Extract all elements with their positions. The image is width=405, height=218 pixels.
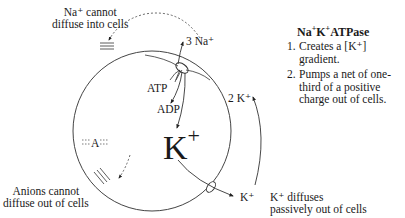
function-item: 2. Pumps a net of one-third of a positiv… — [287, 68, 405, 106]
na-cannot-label: Na⁺ cannot diffuse into cells — [52, 6, 128, 30]
na-out-arrow — [178, 42, 183, 64]
intracellular-k-label: K+ — [163, 123, 200, 165]
anion-label: A — [91, 137, 99, 149]
two-k-label: 2 K⁺ — [228, 92, 251, 104]
atp-label: ATP — [147, 82, 167, 94]
k-recycle-arrow — [253, 97, 261, 185]
k-leak-channel — [205, 180, 218, 194]
k-diffuses-label: K⁺ diffuses passively out of cells — [270, 191, 367, 215]
pump-title: Na+K+ATPase — [297, 24, 369, 40]
anion-dashed-arrow — [119, 155, 130, 178]
anion-blocked-icon — [94, 168, 110, 184]
function-item: 1. Creates a [K⁺] gradient. — [287, 40, 405, 65]
adp-label: ADP — [157, 103, 180, 115]
k-in-arrow — [177, 73, 185, 128]
na-blocked-icon — [100, 43, 114, 49]
pump-function-list: 1. Creates a [K⁺] gradient. 2. Pumps a n… — [287, 40, 405, 106]
k-out-label: K⁺ — [240, 191, 254, 203]
three-na-label: 3 Na⁺ — [186, 35, 214, 47]
anions-cannot-label: Anions cannot diffuse out of cells — [3, 185, 89, 209]
